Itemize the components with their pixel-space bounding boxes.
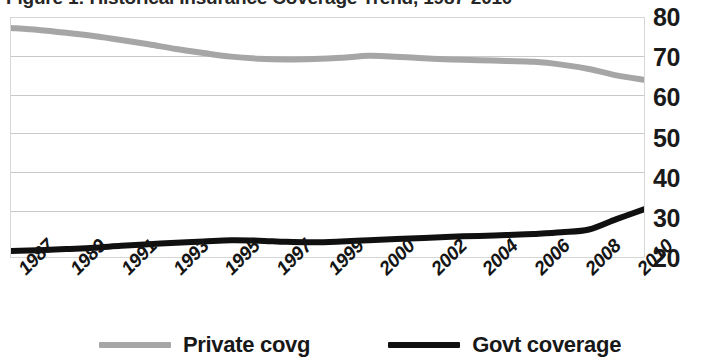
chart-container: Figure 1: Historical Insurance Coverage … [0,0,720,363]
y-axis-tick-label: 50 [653,125,680,150]
legend-swatch-private [99,342,171,348]
legend-label: Govt coverage [472,332,621,358]
line-series [11,28,644,80]
legend-swatch-govt [388,342,460,348]
y-axis-tick-label: 30 [653,205,680,230]
series-lines [11,18,644,257]
y-axis-tick-label: 40 [653,165,680,190]
chart-legend: Private covgGovt coverage [0,330,720,363]
y-axis-tick-label: 70 [653,45,680,70]
legend-item[interactable]: Govt coverage [388,330,621,360]
chart-title: Figure 1: Historical Insurance Coverage … [6,0,706,9]
legend-item[interactable]: Private covg [99,330,310,360]
x-axis: 1987198919911993199519971999200020022004… [0,258,660,318]
plot-area [10,17,645,258]
y-axis: 80706050403020 [650,0,716,270]
y-axis-tick-label: 60 [653,85,680,110]
y-axis-tick-label: 80 [653,5,680,30]
legend-label: Private covg [183,332,310,358]
